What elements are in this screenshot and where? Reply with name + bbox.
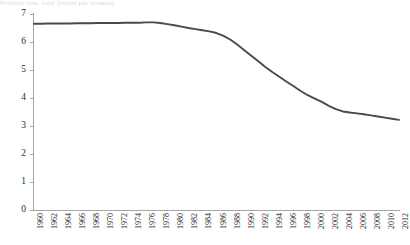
x-axis-line [33,210,400,211]
x-tick-label-1982: 1982 [191,213,199,229]
y-tick-label-6: 6 [0,37,26,47]
x-tick-label-1968: 1968 [93,213,101,229]
x-tick-label-1976: 1976 [149,213,157,229]
y-tick-mark-1 [30,182,34,183]
x-tick-label-2008: 2008 [374,213,382,229]
series-line-fertility-rate [34,22,399,119]
x-tick-label-1978: 1978 [163,213,171,229]
y-tick-mark-4 [30,98,34,99]
x-tick-label-2010: 2010 [388,213,396,229]
y-tick-label-4: 4 [0,93,26,103]
y-tick-label-0: 0 [0,205,26,215]
y-tick-label-2: 2 [0,149,26,159]
x-tick-label-2002: 2002 [332,213,340,229]
x-tick-label-1980: 1980 [177,213,185,229]
x-tick-label-1964: 1964 [65,213,73,229]
x-tick-label-1990: 1990 [248,213,256,229]
x-tick-label-1974: 1974 [135,213,143,229]
y-tick-mark-5 [30,70,34,71]
x-tick-label-1984: 1984 [205,213,213,229]
y-tick-label-3: 3 [0,121,26,131]
x-tick-label-1988: 1988 [234,213,242,229]
x-tick-label-1994: 1994 [276,213,284,229]
y-tick-mark-6 [30,42,34,43]
x-tick-label-1986: 1986 [220,213,228,229]
x-tick-label-1962: 1962 [51,213,59,229]
y-tick-mark-2 [30,154,34,155]
x-tick-label-2004: 2004 [346,213,354,229]
chart-title-clipped: Fertility rate, total (births per woman) [0,0,403,7]
x-tick-label-1960: 1960 [37,213,45,229]
x-tick-label-2000: 2000 [318,213,326,229]
x-tick-label-1966: 1966 [79,213,87,229]
y-tick-label-7: 7 [0,9,26,19]
x-tick-label-1992: 1992 [262,213,270,229]
x-tick-label-2006: 2006 [360,213,368,229]
x-tick-label-2012: 2012 [402,213,410,229]
x-tick-label-1996: 1996 [290,213,298,229]
x-tick-label-1998: 1998 [304,213,312,229]
y-tick-label-1: 1 [0,177,26,187]
y-tick-label-5: 5 [0,65,26,75]
x-tick-label-1972: 1972 [121,213,129,229]
y-tick-mark-3 [30,126,34,127]
y-tick-mark-0 [30,210,34,211]
x-tick-label-1970: 1970 [107,213,115,229]
y-tick-mark-7 [30,14,34,15]
